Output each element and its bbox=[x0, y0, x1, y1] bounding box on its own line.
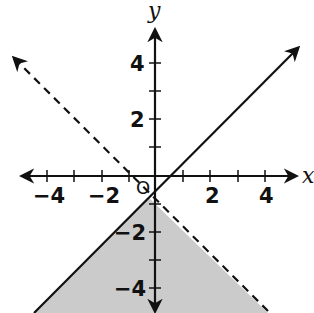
x-axis-label: x bbox=[302, 163, 314, 188]
y-tick-label-neg4: −4 bbox=[114, 277, 146, 301]
x-tick-label-4: 4 bbox=[259, 184, 274, 208]
y-tick-label-4: 4 bbox=[130, 52, 145, 76]
x-tick-label-neg2: −2 bbox=[88, 184, 120, 208]
y-tick-label-2: 2 bbox=[130, 108, 145, 132]
x-tick-label-2: 2 bbox=[205, 184, 220, 208]
inequality-graph: −4 −2 2 4 4 2 −2 −4 O y x bbox=[0, 0, 314, 313]
y-tick-label-neg2: −2 bbox=[114, 221, 146, 245]
x-tick-label-neg4: −4 bbox=[33, 184, 65, 208]
y-axis-label: y bbox=[147, 0, 161, 23]
shaded-region bbox=[34, 197, 268, 313]
origin-label: O bbox=[136, 177, 150, 198]
